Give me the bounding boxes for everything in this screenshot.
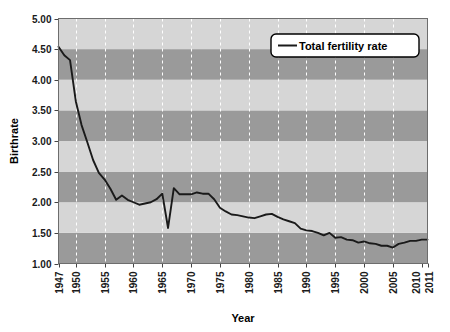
x-tick-label: 2000 <box>359 271 370 294</box>
x-axis-title: Year <box>231 312 255 324</box>
plot-band <box>59 110 428 141</box>
x-tick-label: 2011 <box>424 271 435 293</box>
x-tick-label: 1965 <box>157 271 168 294</box>
x-tick-label: 1995 <box>330 271 341 294</box>
y-axis-title-group: Birthrate <box>8 118 20 164</box>
x-tick-label: 1970 <box>186 271 197 294</box>
fertility-rate-line-chart: 1.001.502.002.503.003.504.004.505.00 194… <box>0 0 450 332</box>
chart-container: 1.001.502.002.503.003.504.004.505.00 194… <box>0 0 450 332</box>
x-tick-label: 1960 <box>128 271 139 294</box>
plot-band <box>59 202 428 233</box>
x-tick-label: 1975 <box>215 271 226 294</box>
y-tick-label: 3.50 <box>32 105 52 116</box>
y-tick-label: 2.50 <box>32 167 52 178</box>
y-tick-label: 1.00 <box>32 259 52 270</box>
y-tick-label: 1.50 <box>32 228 52 239</box>
plot-band <box>59 141 428 172</box>
x-tick-label: 1950 <box>71 271 82 294</box>
y-tick-label: 4.50 <box>32 44 52 55</box>
x-tick-label: 1980 <box>244 271 255 294</box>
y-axis-title: Birthrate <box>8 118 20 164</box>
x-tick-label: 2010 <box>411 271 422 294</box>
plot-band <box>59 80 428 111</box>
chart-legend[interactable]: Total fertility rate <box>271 34 419 57</box>
plot-band <box>59 233 428 264</box>
x-tick-label: 1990 <box>301 271 312 294</box>
x-tick-label: 2005 <box>388 271 399 294</box>
x-tick-label: 1947 <box>54 271 65 294</box>
x-tick-label: 1955 <box>100 271 111 294</box>
y-tick-label: 3.00 <box>32 136 52 147</box>
legend-label-total-fertility-rate: Total fertility rate <box>299 40 387 52</box>
plot-band <box>59 172 428 203</box>
x-tick-label: 1985 <box>273 271 284 294</box>
y-tick-label: 4.00 <box>32 75 52 86</box>
y-tick-label: 2.00 <box>32 197 52 208</box>
y-tick-label: 5.00 <box>32 14 52 25</box>
